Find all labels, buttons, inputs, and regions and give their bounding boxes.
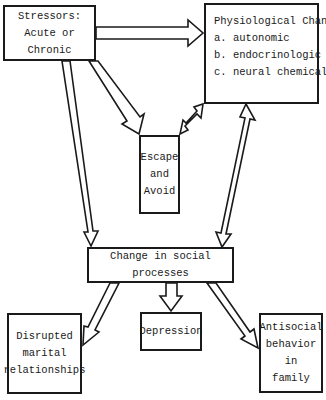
physiological-item-autonomic: a. autonomic <box>214 30 317 47</box>
arrow-physiological-social <box>216 104 255 247</box>
arrow-stressors-to-social <box>62 61 98 246</box>
antisocial-line-1: Antisocial <box>260 319 323 336</box>
disrupted-line-3: relationships <box>4 362 86 379</box>
disrupted-line-1: Disrupted <box>16 328 73 345</box>
arrow-social-to-disrupted <box>83 283 119 345</box>
node-disrupted-marital-relationships: Disrupted marital relationships <box>7 313 82 394</box>
escape-line-3: Avoid <box>144 183 176 200</box>
node-antisocial-behavior-in-family: Antisocial behavior in family <box>259 313 323 393</box>
stressors-line-2: Acute or Chronic <box>5 25 94 59</box>
node-change-in-social-processes: Change in social processes <box>87 247 234 283</box>
arrow-stressors-to-physiological <box>96 20 203 46</box>
physiological-title: Physiological Change <box>214 13 317 30</box>
physiological-item-neural-chemical: c. neural chemical <box>214 64 317 81</box>
stressors-line-1: Stressors: <box>18 8 81 25</box>
escape-line-2: and <box>150 166 169 183</box>
depression-line-1: Depression <box>140 323 203 340</box>
social-line-1: Change in social processes <box>89 248 232 282</box>
node-physiological-change: Physiological Change a. autonomic b. end… <box>204 3 319 104</box>
arrow-social-to-antisocial <box>207 283 258 348</box>
antisocial-line-3: in <box>285 353 298 370</box>
arrow-social-to-depression <box>160 283 182 311</box>
physiological-item-endocrinologic: b. endocrinologic <box>214 47 317 64</box>
antisocial-line-2: behavior <box>266 336 316 353</box>
node-escape-and-avoid: Escape and Avoid <box>139 135 180 214</box>
disrupted-line-2: marital <box>22 345 66 362</box>
node-depression: Depression <box>140 312 202 351</box>
arrow-stressors-to-escape <box>89 61 144 134</box>
node-stressors: Stressors: Acute or Chronic <box>3 5 96 61</box>
arrow-physiological-escape <box>180 104 203 134</box>
escape-line-1: Escape <box>141 149 179 166</box>
antisocial-line-4: family <box>272 370 310 387</box>
